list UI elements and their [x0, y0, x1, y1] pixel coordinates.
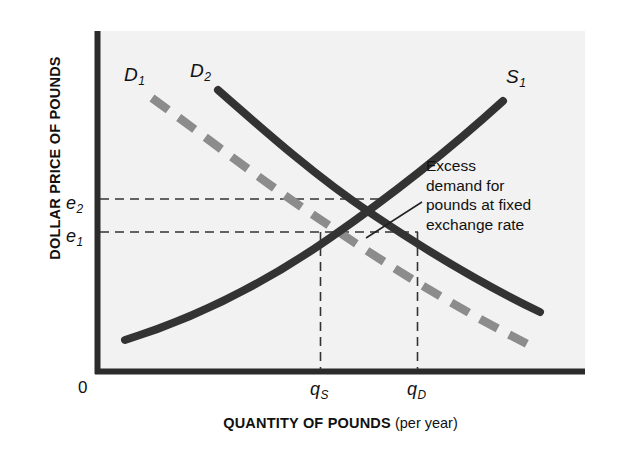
- x-axis-label-main: QUANTITY OF POUNDS: [223, 415, 391, 431]
- x-axis-label-unit-text: (per year): [395, 415, 458, 431]
- x-tick-qs-sub: S: [321, 388, 329, 402]
- x-tick-qs-base: q: [310, 379, 320, 399]
- annotation-line-3: pounds at fixed: [426, 195, 586, 215]
- x-tick-qd-base: q: [407, 379, 417, 399]
- curve-label-s1: S1: [506, 66, 525, 88]
- curve-label-s1-base: S: [506, 66, 519, 87]
- x-axis-label: QUANTITY OF POUNDS (per year): [96, 415, 585, 431]
- curve-label-d2-base: D: [190, 60, 204, 81]
- curve-label-d1: D1: [124, 64, 145, 86]
- figure-container: DOLLAR PRICE OF POUNDS QUANTITY OF POUND…: [0, 0, 621, 455]
- x-tick-qd: qD: [407, 379, 426, 400]
- y-tick-e1-base: e: [66, 226, 76, 246]
- y-tick-e1: e1: [66, 226, 83, 247]
- x-tick-qd-sub: D: [418, 388, 427, 402]
- excess-demand-annotation: Excess demand for pounds at fixed exchan…: [426, 156, 586, 234]
- annotation-line-2: demand for: [426, 176, 586, 196]
- curve-label-d2: D2: [190, 60, 211, 82]
- curve-label-d2-sub: 2: [204, 70, 211, 84]
- y-tick-e1-sub: 1: [77, 235, 84, 249]
- origin-label: 0: [78, 378, 87, 398]
- curve-label-s1-sub: 1: [519, 76, 526, 90]
- y-tick-e2-sub: 2: [77, 202, 84, 216]
- y-tick-e2-base: e: [66, 193, 76, 213]
- curve-label-d1-sub: 1: [138, 74, 145, 88]
- x-tick-qs: qS: [310, 379, 328, 400]
- curve-label-d1-base: D: [124, 64, 138, 85]
- annotation-line-1: Excess: [426, 156, 586, 176]
- y-axis-label: DOLLAR PRICE OF POUNDS: [47, 8, 63, 308]
- y-tick-e2: e2: [66, 193, 83, 214]
- annotation-line-4: exchange rate: [426, 215, 586, 235]
